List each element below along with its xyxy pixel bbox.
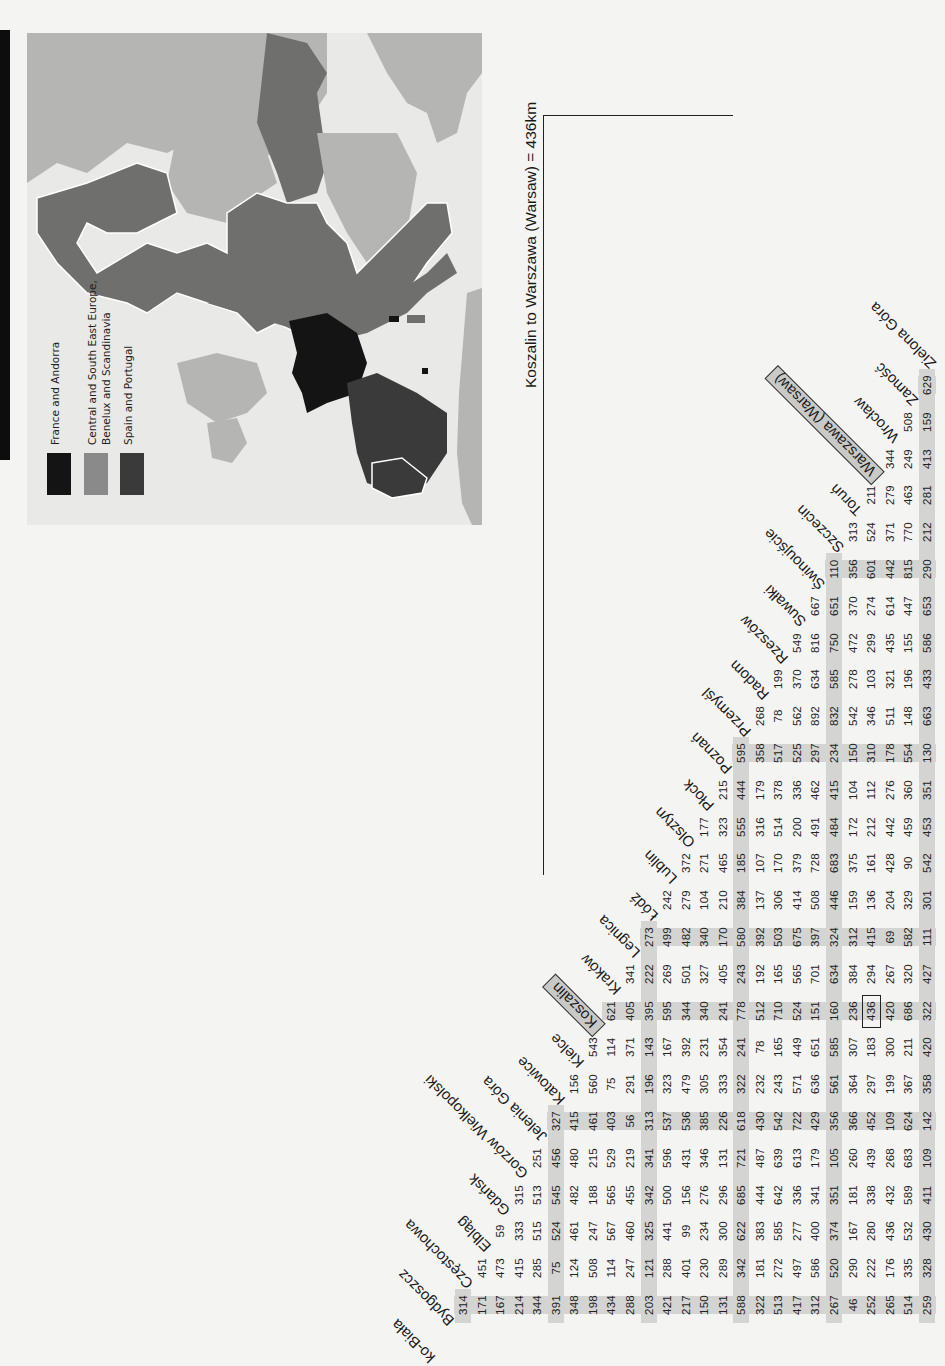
distance-cell: 441 bbox=[661, 1221, 673, 1241]
distance-cell: 428 bbox=[884, 853, 896, 873]
distance-cell: 571 bbox=[791, 1074, 803, 1094]
city-header-kielce: Kielce bbox=[546, 1031, 587, 1072]
distance-cell: 520 bbox=[828, 1258, 840, 1278]
distance-cell: 288 bbox=[624, 1295, 636, 1315]
distance-cell: 358 bbox=[921, 1074, 933, 1094]
distance-cell: 497 bbox=[791, 1258, 803, 1278]
distance-cell: 462 bbox=[809, 780, 821, 800]
city-header-rzesz-w: Rzeszów bbox=[736, 612, 791, 667]
distance-cell: 549 bbox=[791, 633, 803, 653]
distance-cell: 323 bbox=[717, 817, 729, 837]
distance-cell: 338 bbox=[865, 1185, 877, 1205]
distance-cell: 585 bbox=[828, 669, 840, 689]
distance-cell: 170 bbox=[717, 927, 729, 947]
distance-cell: 170 bbox=[772, 853, 784, 873]
distance-cell: 613 bbox=[791, 1148, 803, 1168]
distance-cell: 482 bbox=[680, 927, 692, 947]
distance-cell: 114 bbox=[605, 1038, 617, 1057]
distance-cell: 686 bbox=[902, 1001, 914, 1021]
distance-cell: 420 bbox=[884, 1001, 896, 1021]
city-header-ko-bia-a: ko-Biała bbox=[388, 1316, 438, 1366]
distance-cell: 159 bbox=[847, 890, 859, 910]
distance-cell: 542 bbox=[847, 706, 859, 726]
distance-cell: 212 bbox=[921, 522, 933, 542]
distance-cell: 196 bbox=[902, 669, 914, 689]
distance-cell: 651 bbox=[828, 596, 840, 616]
distance-cell: 562 bbox=[791, 706, 803, 726]
distance-cell: 267 bbox=[884, 964, 896, 984]
distance-cell: 328 bbox=[921, 1258, 933, 1278]
distance-cell: 288 bbox=[661, 1258, 673, 1278]
distance-cell: 663 bbox=[921, 706, 933, 726]
distance-cell: 312 bbox=[809, 1295, 821, 1315]
distance-cell: 230 bbox=[698, 1258, 710, 1278]
distance-cell: 514 bbox=[902, 1295, 914, 1315]
distance-cell: 242 bbox=[661, 890, 673, 910]
distance-cell: 172 bbox=[847, 817, 859, 837]
distance-cell: 512 bbox=[754, 1001, 766, 1021]
distance-cell: 268 bbox=[754, 706, 766, 726]
distance-cell: 618 bbox=[735, 1111, 747, 1131]
distance-cell: 121 bbox=[643, 1258, 655, 1278]
distance-cell: 219 bbox=[624, 1148, 636, 1168]
distance-cell: 249 bbox=[902, 449, 914, 469]
distance-cell: 290 bbox=[921, 559, 933, 579]
distance-cell: 290 bbox=[847, 1258, 859, 1278]
city-header-radom: Radom bbox=[726, 658, 772, 704]
city-header-gorz-w-wielkopolski: Gorzów Wielkopolski bbox=[421, 1072, 531, 1182]
distance-cell: 211 bbox=[902, 1038, 914, 1057]
city-header-p-ock: Płock bbox=[679, 776, 717, 814]
distance-cell: 56 bbox=[624, 1114, 636, 1127]
distance-cell: 285 bbox=[531, 1258, 543, 1278]
distance-cell: 212 bbox=[865, 817, 877, 837]
distance-cell: 199 bbox=[772, 669, 784, 689]
distance-cell: 104 bbox=[847, 780, 859, 800]
distance-cell: 588 bbox=[735, 1295, 747, 1315]
distance-cell: 247 bbox=[587, 1221, 599, 1241]
distance-cell: 340 bbox=[698, 1001, 710, 1021]
distance-cell: 291 bbox=[624, 1074, 636, 1094]
legend-label: Central and South East Europe,Benelux an… bbox=[85, 280, 113, 445]
distance-cell: 651 bbox=[809, 1037, 821, 1057]
distance-cell: 816 bbox=[809, 633, 821, 653]
city-header-pozna-: Poznań bbox=[687, 730, 735, 778]
distance-cell: 306 bbox=[772, 890, 784, 910]
legend-swatch bbox=[84, 453, 108, 495]
distance-cell: 624 bbox=[902, 1111, 914, 1131]
europe-region-map: France and AndorraCentral and South East… bbox=[27, 33, 482, 525]
distance-cell: 499 bbox=[661, 927, 673, 947]
city-header-zielona-g-ra: Zielona Góra bbox=[866, 299, 939, 372]
distance-cell: 110 bbox=[828, 560, 840, 579]
distance-cell: 417 bbox=[791, 1295, 803, 1315]
distance-cell: 310 bbox=[865, 743, 877, 763]
distance-cell: 156 bbox=[568, 1074, 580, 1094]
distance-cell: 109 bbox=[921, 1148, 933, 1168]
distance-cell: 395 bbox=[643, 1001, 655, 1021]
distance-cell: 281 bbox=[921, 485, 933, 505]
distance-cell: 431 bbox=[680, 1148, 692, 1168]
distance-cell: 721 bbox=[735, 1148, 747, 1168]
city-header-warszawa-warsaw-: Warszawa (Warsaw) bbox=[764, 364, 884, 484]
distance-cell: 314 bbox=[457, 1295, 469, 1315]
distance-cell: 529 bbox=[605, 1148, 617, 1168]
distance-cell: 636 bbox=[809, 1074, 821, 1094]
distance-cell: 430 bbox=[921, 1221, 933, 1241]
distance-cell: 59 bbox=[494, 1225, 506, 1238]
distance-cell: 778 bbox=[735, 1001, 747, 1021]
distance-cell: 508 bbox=[809, 890, 821, 910]
distance-cell: 351 bbox=[828, 1185, 840, 1205]
distance-cell: 278 bbox=[847, 669, 859, 689]
distance-cell: 346 bbox=[865, 706, 877, 726]
distance-cell: 366 bbox=[847, 1111, 859, 1131]
distance-cell: 413 bbox=[921, 449, 933, 469]
distance-cell: 629 bbox=[921, 375, 933, 395]
distance-cell: 614 bbox=[884, 596, 896, 616]
distance-cell: 356 bbox=[847, 559, 859, 579]
distance-cell: 401 bbox=[680, 1258, 692, 1278]
distance-cell: 232 bbox=[754, 1074, 766, 1094]
distance-cell: 273 bbox=[643, 927, 655, 947]
distance-cell: 722 bbox=[791, 1111, 803, 1131]
city-header-wroc-aw: Wrocław bbox=[850, 394, 902, 446]
distance-cell: 429 bbox=[809, 1111, 821, 1131]
distance-cell: 315 bbox=[513, 1185, 525, 1205]
